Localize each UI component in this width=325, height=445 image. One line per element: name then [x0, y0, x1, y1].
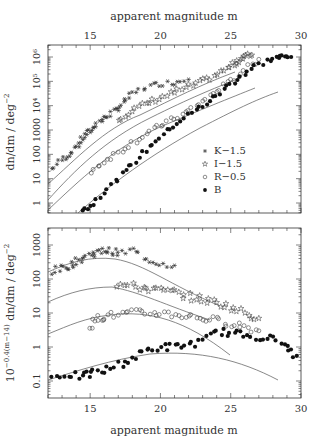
series-asterisk: [50, 246, 177, 276]
x-tick-label: 25: [224, 403, 237, 414]
figure: apparent magnitude m 15202530 1101001000…: [0, 0, 325, 445]
bottom-x-tick-labels: 15202530: [84, 403, 308, 414]
y-tick-label: 10⁴: [31, 98, 42, 114]
y-tick-label: 1: [31, 344, 42, 350]
y-tick-label: 10⁵: [31, 73, 42, 89]
y-tick-label: 1000: [31, 118, 42, 142]
top-data-points: [50, 51, 293, 213]
legend-label: R−0.5: [214, 171, 246, 182]
x-tick-label: 15: [84, 403, 97, 414]
top-x-tick-labels: 15202530: [84, 30, 308, 41]
legend-label: I−1.5: [214, 158, 242, 169]
legend-item: K−1.5: [203, 145, 246, 156]
x-tick-label: 15: [84, 30, 97, 41]
legend: K−1.5I−1.5R−0.5B: [202, 145, 245, 195]
y-tick-label: 0.1: [31, 373, 42, 388]
bottom-x-axis-label: apparent magnitude m: [110, 424, 238, 437]
legend-item: I−1.5: [202, 158, 242, 169]
y-tick-label: 10: [31, 173, 42, 185]
legend-label: B: [214, 184, 221, 195]
x-tick-label: 30: [295, 403, 308, 414]
x-tick-label: 30: [295, 30, 308, 41]
series-filled-circle: [81, 53, 294, 212]
y-tick-label: 100: [31, 270, 42, 288]
y-tick-label: 10⁶: [31, 49, 42, 65]
series-star: [114, 280, 262, 322]
bottom-model-curves: [48, 258, 278, 380]
top-y-axis-label: dn/dm / deg−2: [3, 94, 17, 171]
legend-item: R−0.5: [203, 171, 246, 182]
bottom-y-tick-labels: 0.11101001000: [31, 233, 42, 389]
y-tick-label: 10: [31, 307, 42, 319]
legend-label: K−1.5: [214, 145, 246, 156]
y-tick-label: 1: [31, 200, 42, 206]
y-tick-label: 100: [31, 145, 42, 163]
y-tick-label: 1000: [31, 233, 42, 257]
top-y-tick-labels: 110100100010⁴10⁵10⁶: [31, 49, 42, 206]
x-tick-label: 20: [154, 403, 167, 414]
x-tick-label: 25: [224, 30, 237, 41]
x-tick-label: 20: [154, 30, 167, 41]
series-filled-circle: [49, 327, 299, 381]
top-x-axis-label: apparent magnitude m: [110, 10, 238, 23]
bottom-y-axis-label: 10−0.4(m−14) dn/dm / deg−2: [3, 244, 17, 382]
series-star: [116, 51, 254, 123]
legend-item: B: [203, 184, 221, 195]
bottom-data-points: [49, 246, 299, 381]
